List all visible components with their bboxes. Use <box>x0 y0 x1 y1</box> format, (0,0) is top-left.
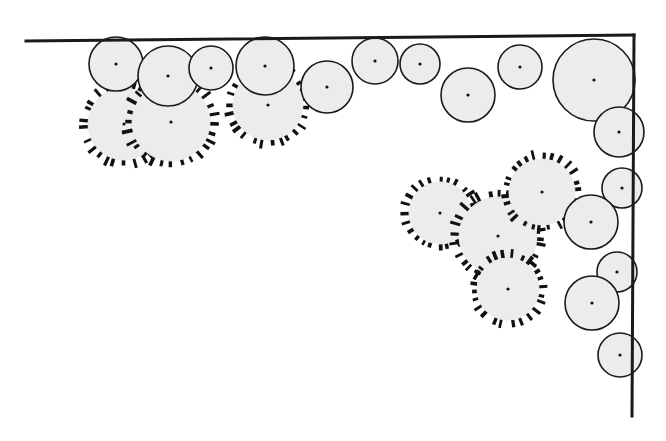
particle-center-dot <box>325 85 328 88</box>
smooth-particle <box>400 44 440 84</box>
particle-center-dot <box>266 103 269 106</box>
particle-center-dot <box>518 65 521 68</box>
smooth-particle <box>565 276 619 330</box>
smooth-particle <box>236 37 294 95</box>
particle-center-dot <box>166 74 169 77</box>
smooth-particle <box>441 68 495 122</box>
smooth-particle <box>89 37 143 91</box>
smooth-particle <box>594 107 644 157</box>
smooth-particle <box>564 195 618 249</box>
right-wall <box>632 35 634 416</box>
smooth-particle <box>598 333 642 377</box>
particle-center-dot <box>122 122 125 125</box>
particle-center-dot <box>209 66 212 69</box>
particle-center-dot <box>590 301 593 304</box>
smooth-particle <box>301 61 353 113</box>
particle-center-dot <box>618 353 621 356</box>
particle-center-dot <box>496 234 499 237</box>
particle-center-dot <box>114 62 117 65</box>
particle-center-dot <box>506 287 509 290</box>
particle-center-dot <box>592 78 595 81</box>
particle-center-dot <box>615 270 618 273</box>
particle-center-dot <box>466 93 469 96</box>
particle-center-dot <box>418 62 421 65</box>
particle-center-dot <box>540 190 543 193</box>
smooth-particle <box>189 46 233 90</box>
particle-center-dot <box>438 211 441 214</box>
smooth-particle <box>498 45 542 89</box>
smooth-particle <box>352 38 398 84</box>
particle-center-dot <box>373 59 376 62</box>
figure-root <box>0 0 666 441</box>
particle-center-dot <box>169 120 172 123</box>
particle-packing-figure <box>0 0 666 441</box>
particle-center-dot <box>263 64 266 67</box>
particle-center-dot <box>589 220 592 223</box>
smooth-particle <box>138 46 198 106</box>
particle-center-dot <box>620 186 623 189</box>
particle-center-dot <box>617 130 620 133</box>
